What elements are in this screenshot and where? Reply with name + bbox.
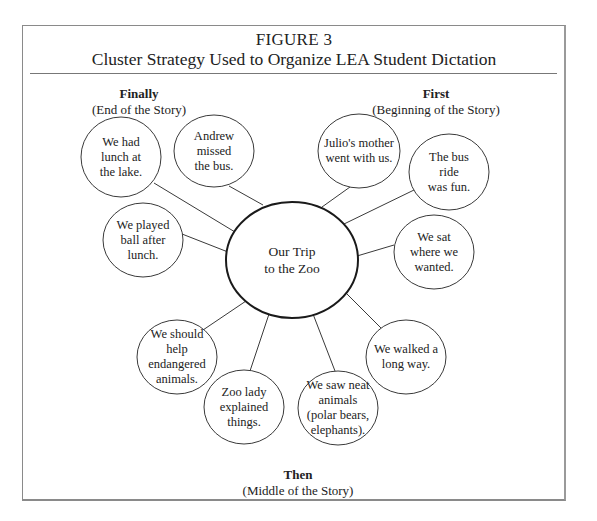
center-node-label: Our Trip to the Zoo	[226, 202, 358, 318]
node-label-julio: Julio's mother went with us.	[318, 114, 400, 188]
node-label-walked: We walked a long way.	[366, 320, 446, 394]
node-label-sat: We sat where we wanted.	[394, 215, 474, 289]
connector-neat	[313, 314, 335, 371]
node-label-andrew: Andrew missed the bus.	[174, 115, 254, 187]
connector-zoolady	[250, 314, 269, 371]
node-label-ball: We played ball after lunch.	[103, 203, 183, 277]
node-label-busride: The bus ride was fun.	[409, 134, 489, 210]
connector-sat	[357, 245, 394, 256]
node-label-endangered: We should help endangered animals.	[137, 320, 217, 394]
node-label-lunch: We had lunch at the lake.	[81, 117, 161, 197]
connector-ball	[182, 234, 228, 252]
node-label-neat: We saw neat animals (polar bears, elepha…	[298, 371, 378, 445]
